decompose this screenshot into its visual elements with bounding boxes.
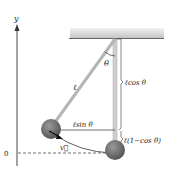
axis-arrow-icon — [15, 24, 20, 31]
y-axis: y — [13, 14, 20, 166]
theta-label: θ — [104, 59, 109, 68]
arrowhead-icon — [56, 134, 63, 139]
vertical-rod — [113, 39, 117, 143]
cos-bracket — [119, 39, 123, 130]
horizontal-label: ℓsin θ — [72, 121, 93, 129]
origin-label: 0 — [4, 150, 8, 158]
y-axis-label: y — [13, 14, 19, 23]
ceiling — [70, 28, 164, 38]
pendulum-diagram: y 0 θ ℓ ℓsin θ ℓcos θ ℓ(1−cos θ) v⃗ — [0, 0, 184, 174]
angled-rod — [53, 39, 115, 125]
velocity-label: v⃗ — [60, 144, 68, 152]
bob-rest — [105, 140, 125, 160]
vertical-label: ℓcos θ — [124, 79, 147, 87]
drop-label: ℓ(1−cos θ) — [123, 137, 161, 145]
